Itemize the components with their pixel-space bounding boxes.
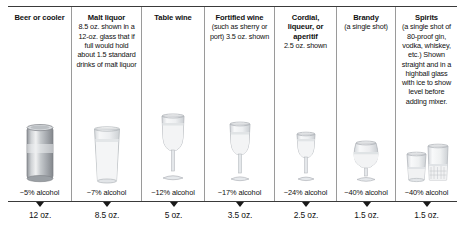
column-title-table-wine: Table wine (151, 13, 194, 22)
drink-size-chart: Beer or cooler (0, 0, 465, 230)
serving-size-value-table-wine: 5 oz. (165, 210, 183, 220)
column-title-malt-liquor: Malt liquor (85, 13, 128, 22)
pointer-triangle-icon (103, 202, 111, 207)
column-subtitle-fortified-wine: (such as sherry or port) 3.5 oz. shown (205, 22, 274, 41)
column-subtitle-cordial: 2.5 oz. shown (281, 41, 330, 50)
alcohol-percent-malt-liquor: ~7% alcohol (72, 188, 141, 197)
serving-size-value-spirits: 1.5 oz. (414, 210, 438, 220)
column-title-spirits: Spirits (412, 13, 441, 22)
serving-size-beer: 12 oz. (8, 202, 72, 230)
column-fortified-wine: Fortified wine (such as sherry or port) … (205, 7, 275, 201)
column-malt-liquor: Malt liquor 8.5 oz. shown in a 12-oz. gl… (72, 7, 142, 201)
column-title-brandy: Brandy (350, 13, 382, 22)
alcohol-percent-spirits: ~40% alcohol (396, 188, 457, 197)
column-subtitle-malt-liquor: 8.5 oz. shown in a 12-oz. glass that if … (72, 22, 141, 68)
vessel-wine-glass-small (205, 92, 274, 184)
pointer-triangle-icon (423, 202, 431, 207)
serving-size-fortified-wine: 3.5 oz. (205, 202, 275, 230)
serving-size-value-fortified-wine: 3.5 oz. (228, 210, 252, 220)
vessel-wine-glass (142, 92, 204, 184)
serving-size-value-beer: 12 oz. (29, 210, 51, 220)
column-spirits: Spirits (a single shot of 80-proof gin, … (396, 7, 457, 201)
comparison-table: Beer or cooler (8, 6, 457, 202)
column-beer: Beer or cooler (8, 7, 72, 201)
serving-size-value-cordial: 2.5 oz. (294, 210, 318, 220)
serving-size-value-brandy: 1.5 oz. (354, 210, 378, 220)
serving-size-row: 12 oz. 8.5 oz. 5 oz. 3.5 oz. 2.5 oz. 1.5… (8, 202, 457, 230)
serving-size-brandy: 1.5 oz. (337, 202, 396, 230)
column-title-beer: Beer or cooler (11, 13, 67, 22)
pointer-triangle-icon (36, 202, 44, 207)
serving-size-value-malt-liquor: 8.5 oz. (95, 210, 119, 220)
column-table-wine: Table wine (142, 7, 205, 201)
serving-size-table-wine: 5 oz. (142, 202, 205, 230)
alcohol-percent-table-wine: ~12% alcohol (142, 188, 204, 197)
vessel-snifter (337, 92, 395, 184)
column-cordial: Cordial, liqueur, or aperitif 2.5 oz. sh… (275, 7, 337, 201)
alcohol-percent-fortified-wine: ~17% alcohol (205, 188, 274, 197)
alcohol-percent-brandy: ~40% alcohol (337, 188, 395, 197)
serving-size-malt-liquor: 8.5 oz. (72, 202, 142, 230)
pointer-triangle-icon (236, 202, 244, 207)
column-title-cordial: Cordial, liqueur, or aperitif (275, 13, 336, 41)
column-title-fortified-wine: Fortified wine (213, 13, 267, 22)
column-subtitle-brandy: (a single shot) (341, 22, 391, 31)
vessel-shot-and-highball (396, 92, 457, 184)
alcohol-percent-cordial: ~24% alcohol (275, 188, 336, 197)
pointer-triangle-icon (363, 202, 371, 207)
serving-size-cordial: 2.5 oz. (275, 202, 337, 230)
vessel-beer-can (8, 92, 71, 184)
pointer-triangle-icon (170, 202, 178, 207)
serving-size-spirits: 1.5 oz. (396, 202, 457, 230)
alcohol-percent-beer: ~5% alcohol (8, 188, 71, 197)
pointer-triangle-icon (302, 202, 310, 207)
vessel-tall-glass (72, 92, 141, 184)
column-brandy: Brandy (a single shot) (337, 7, 396, 201)
vessel-cordial-glass (275, 92, 336, 184)
